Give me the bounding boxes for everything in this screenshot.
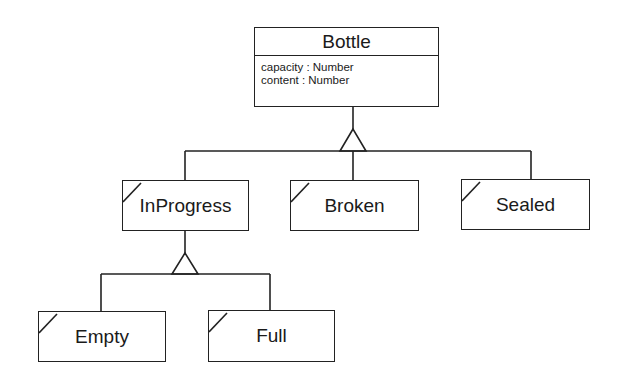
state-broken[interactable]: Broken: [290, 180, 419, 231]
class-bottle-title: Bottle: [255, 28, 438, 56]
state-inprogress-label: InProgress: [123, 195, 248, 217]
state-empty-label: Empty: [39, 326, 165, 348]
state-sealed[interactable]: Sealed: [461, 179, 590, 230]
state-empty[interactable]: Empty: [38, 311, 166, 362]
attribute-capacity: capacity : Number: [261, 61, 354, 74]
attribute-content: content : Number: [261, 74, 354, 87]
state-broken-label: Broken: [291, 195, 418, 217]
generalization-triangle-icon: [340, 129, 366, 151]
class-bottle-attributes: capacity : Number content : Number: [261, 61, 354, 87]
class-bottle[interactable]: Bottle capacity : Number content : Numbe…: [254, 27, 439, 107]
state-full-label: Full: [209, 325, 334, 347]
state-inprogress[interactable]: InProgress: [122, 180, 249, 231]
state-sealed-label: Sealed: [462, 194, 589, 216]
state-full[interactable]: Full: [208, 310, 335, 362]
